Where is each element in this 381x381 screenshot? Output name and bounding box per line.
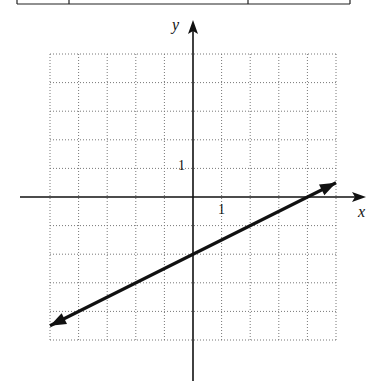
line-arrowhead-icon <box>50 313 67 326</box>
x-axis-label: x <box>358 203 365 221</box>
coordinate-plane <box>0 0 381 381</box>
line-arrowhead-icon <box>319 183 336 196</box>
y-tick-label: 1 <box>178 158 185 174</box>
y-axis-label: y <box>172 16 179 34</box>
x-tick-label: 1 <box>218 202 225 218</box>
table-fragment <box>17 0 350 4</box>
